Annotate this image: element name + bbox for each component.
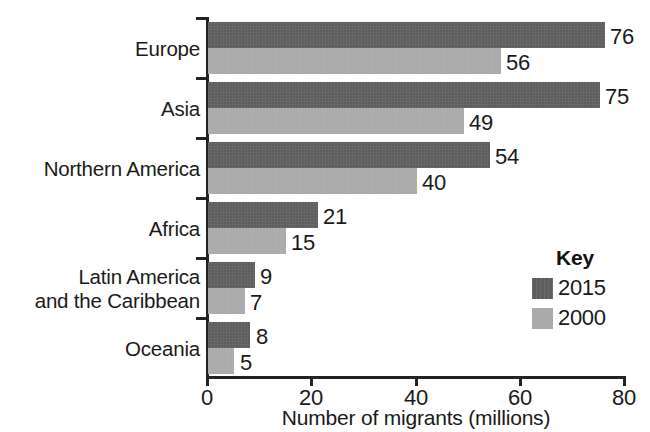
- bar-europe-2000: [208, 48, 501, 74]
- bar-value-asia-2000: 49: [469, 112, 493, 134]
- bar-value-oceania-2015: 8: [256, 326, 268, 348]
- category-label-northern-america: Northern America: [0, 157, 200, 181]
- bar-value-europe-2015: 76: [610, 26, 634, 48]
- y-axis-tick: [196, 257, 207, 260]
- bar-value-oceania-2000: 5: [240, 352, 252, 374]
- legend-swatch-icon-2015: [532, 278, 553, 299]
- y-axis-tick: [196, 317, 207, 320]
- bar-value-northern-america-2000: 40: [422, 172, 446, 194]
- bar-value-africa-2000: 15: [291, 232, 315, 254]
- legend-label-2000: 2000: [558, 306, 606, 330]
- legend-label-2015: 2015: [558, 276, 606, 300]
- category-label-europe: Europe: [0, 37, 200, 61]
- category-label-latin-america: Latin America and the Caribbean: [0, 265, 200, 313]
- bar-value-northern-america-2015: 54: [495, 146, 519, 168]
- bar-value-latin-america-2000: 7: [250, 292, 262, 314]
- bar-africa-2015: [208, 202, 318, 228]
- bar-africa-2000: [208, 228, 286, 254]
- migration-bar-chart: Europe Asia Northern America Africa Lati…: [0, 0, 650, 432]
- y-axis-tick: [196, 77, 207, 80]
- bar-asia-2000: [208, 108, 464, 134]
- category-label-oceania: Oceania: [0, 337, 200, 361]
- bar-value-asia-2015: 75: [605, 86, 629, 108]
- y-axis-tick: [196, 197, 207, 200]
- legend-item-2015: 2015: [519, 273, 631, 303]
- legend-swatch-icon-2000: [532, 308, 553, 329]
- bar-latin-america-2015: [208, 262, 255, 288]
- bar-asia-2015: [208, 82, 600, 108]
- bar-value-africa-2015: 21: [323, 206, 347, 228]
- bar-oceania-2015: [208, 322, 250, 348]
- bar-oceania-2000: [208, 348, 234, 374]
- bar-value-europe-2000: 56: [506, 52, 530, 74]
- category-label-africa: Africa: [0, 217, 200, 241]
- category-label-asia: Asia: [0, 97, 200, 121]
- x-axis-title: Number of migrants (millions): [206, 406, 626, 430]
- y-axis-tick: [196, 17, 207, 20]
- y-axis-tick: [196, 137, 207, 140]
- legend: Key 2015 2000: [519, 246, 631, 333]
- bar-northern-america-2015: [208, 142, 490, 168]
- bar-europe-2015: [208, 22, 605, 48]
- legend-item-2000: 2000: [519, 303, 631, 333]
- bar-northern-america-2000: [208, 168, 417, 194]
- bar-latin-america-2000: [208, 288, 245, 314]
- bar-value-latin-america-2015: 9: [260, 266, 272, 288]
- legend-title: Key: [519, 246, 631, 270]
